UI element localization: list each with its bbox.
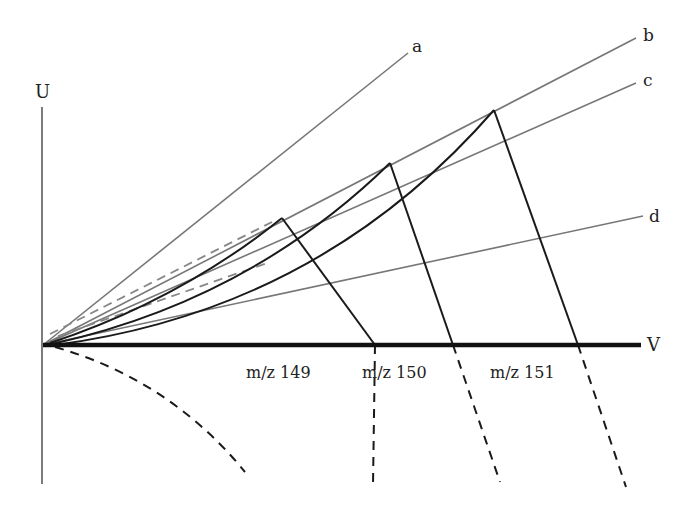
dashed-line-150 — [58, 262, 270, 336]
scan-line-label-b: b — [643, 25, 654, 45]
boundary-dash-151 — [578, 345, 626, 487]
boundary-right-149 — [282, 218, 375, 345]
mz-label-151: m/z 151 — [490, 363, 555, 382]
boundary-right-151 — [494, 110, 578, 345]
scan-line-label-c: c — [643, 70, 653, 90]
scan-line-b — [43, 38, 636, 345]
lower-stability-curve — [55, 347, 245, 472]
scan-line-label-a: a — [412, 36, 422, 56]
u-axis-label: U — [35, 81, 50, 102]
v-axis-label: V — [646, 334, 661, 355]
scan-line-label-d: d — [649, 206, 660, 226]
stability-diagram: U a b c d V m/z 149 m/z 150 m/z 151 — [0, 0, 695, 506]
scan-lines — [43, 38, 643, 345]
scan-line-c — [43, 83, 636, 345]
mz-label-150: m/z 150 — [362, 363, 427, 382]
scan-line-d — [43, 216, 643, 345]
mz-label-149: m/z 149 — [246, 363, 311, 382]
dashed-line-149 — [50, 222, 272, 334]
boundary-right-150 — [390, 163, 453, 345]
